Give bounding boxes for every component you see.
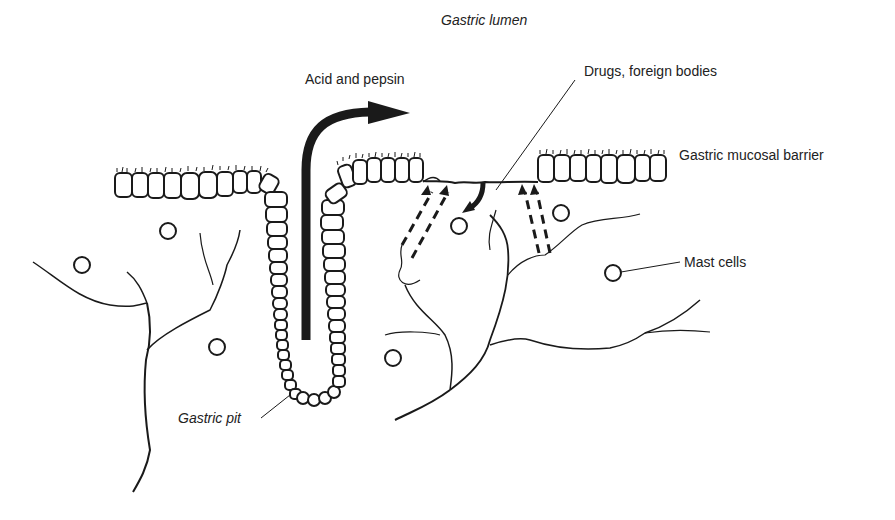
microvilli-left (117, 165, 268, 172)
drug-entry-arrow (470, 183, 483, 208)
mast-cells-label: Mast cells (684, 254, 746, 270)
acid-pepsin-label: Acid and pepsin (305, 71, 405, 87)
mast-cell (451, 218, 467, 234)
pit-bottom (297, 386, 340, 406)
gastric-mucosal-barrier-label: Gastric mucosal barrier (679, 147, 824, 163)
mast-cell (160, 223, 176, 239)
mast-cell (385, 350, 401, 366)
epithelium-middle (337, 158, 423, 189)
damaged-barrier (423, 181, 538, 183)
blood-vessels-right (385, 210, 710, 420)
blood-vessels-left (33, 230, 240, 492)
pit-wall-left (265, 192, 301, 399)
drugs-foreign-bodies-label: Drugs, foreign bodies (584, 63, 717, 79)
acid-arrow-head (368, 101, 410, 124)
mast-cell (74, 257, 90, 273)
gastric-barrier-diagram (0, 0, 895, 520)
gastric-pit-label: Gastric pit (178, 410, 241, 426)
pit-leader (261, 395, 290, 418)
epithelium-left (115, 171, 280, 199)
back-diffusion-left (402, 192, 448, 258)
microvilli-right (540, 149, 664, 154)
epithelium-right (538, 155, 666, 183)
mast-cell (553, 205, 569, 221)
mast-leader (621, 262, 680, 272)
back-diffusion-right (525, 192, 550, 253)
pit-wall-right (321, 182, 349, 387)
mast-cell (209, 339, 225, 355)
mast-cell (605, 265, 621, 281)
gastric-lumen-label: Gastric lumen (441, 12, 527, 28)
